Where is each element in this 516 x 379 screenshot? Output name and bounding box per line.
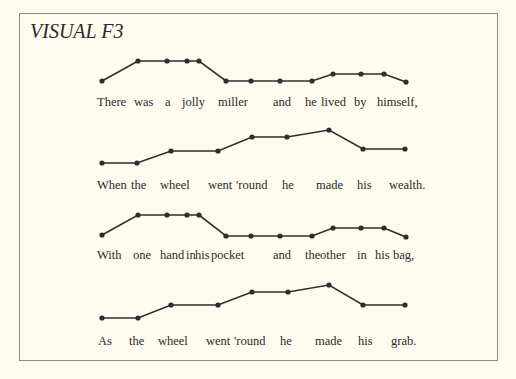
pitch-dot: [215, 302, 220, 307]
lyric-word: 'round: [234, 334, 265, 349]
pitch-dot: [135, 212, 140, 217]
contour-line-1: [99, 58, 408, 84]
pitch-dot: [184, 212, 189, 217]
lyric-word: made: [315, 334, 342, 349]
pitch-dot: [381, 225, 386, 230]
pitch-dot: [249, 289, 254, 294]
lyric-word: the: [305, 248, 320, 263]
pitch-dot: [284, 134, 289, 139]
pitch-dot: [215, 148, 220, 153]
pitch-dot: [360, 146, 365, 151]
lyric-word: went: [208, 178, 232, 193]
lyric-word: a: [165, 95, 171, 110]
pitch-dot: [277, 78, 282, 83]
lyric-word: lived: [321, 95, 346, 110]
pitch-dot: [309, 233, 314, 238]
pitch-dot: [196, 212, 201, 217]
lyric-word: his: [195, 248, 210, 263]
lyric-word: wheel: [160, 178, 190, 193]
lyric-word: There: [97, 95, 126, 110]
lyric-word: wealth.: [389, 178, 425, 193]
pitch-dot: [285, 289, 290, 294]
lyric-word: himself,: [377, 95, 418, 110]
lyric-word: he: [280, 334, 292, 349]
pitch-dot: [403, 79, 408, 84]
lyric-word: jolly: [182, 95, 205, 110]
pitch-dot: [330, 71, 335, 76]
lyric-word: other: [320, 248, 346, 263]
lyric-word: his: [375, 248, 390, 263]
lyric-word: he: [305, 95, 317, 110]
pitch-dot: [309, 78, 314, 83]
lyric-word: he: [282, 178, 294, 193]
pitch-dot: [135, 58, 140, 63]
lyric-word: wheel: [158, 334, 188, 349]
lyric-word: was: [134, 95, 153, 110]
lyric-word: As: [98, 334, 112, 349]
pitch-dot: [164, 58, 169, 63]
pitch-dot: [99, 78, 104, 83]
pitch-dot: [223, 78, 228, 83]
pitch-dot: [249, 134, 254, 139]
pitch-dot: [99, 160, 104, 165]
lyric-word: in: [357, 248, 367, 263]
pitch-dot: [360, 302, 365, 307]
pitch-dot: [358, 71, 363, 76]
pitch-dot: [381, 71, 386, 76]
lyric-word: the: [129, 334, 144, 349]
pitch-dot: [223, 233, 228, 238]
lyric-word: bag,: [393, 248, 414, 263]
pitch-dot: [134, 160, 139, 165]
lyric-word: and: [273, 95, 291, 110]
pitch-dot: [330, 225, 335, 230]
pitch-dot: [402, 302, 407, 307]
lyric-word: hand: [160, 248, 184, 263]
pitch-dot: [403, 234, 408, 239]
pitch-dot: [277, 233, 282, 238]
pitch-dot: [164, 212, 169, 217]
pitch-dot: [402, 146, 407, 151]
contour-line-2: [99, 127, 407, 165]
contour-line-4: [99, 282, 407, 320]
contour-line-3: [99, 212, 408, 239]
lyric-word: made: [316, 178, 343, 193]
lyric-word: one: [133, 248, 151, 263]
lyric-word: by: [354, 95, 367, 110]
pitch-dot: [358, 225, 363, 230]
pitch-dot: [184, 58, 189, 63]
pitch-dot: [168, 302, 173, 307]
lyric-word: went: [206, 334, 230, 349]
lyric-word: the: [131, 178, 146, 193]
lyric-word: pocket: [211, 248, 244, 263]
pitch-dot: [248, 78, 253, 83]
lyric-word: With: [97, 248, 122, 263]
pitch-dot: [326, 127, 331, 132]
lyric-word: miller: [218, 95, 248, 110]
pitch-dot: [99, 315, 104, 320]
lyric-word: his: [358, 334, 373, 349]
lyric-word: When: [97, 178, 127, 193]
lyric-word: his: [357, 178, 372, 193]
lyric-word: 'round: [236, 178, 267, 193]
pitch-dot: [248, 233, 253, 238]
pitch-dot: [326, 282, 331, 287]
pitch-dot: [99, 232, 104, 237]
pitch-dot: [196, 58, 201, 63]
lyric-word: grab.: [391, 334, 416, 349]
pitch-dot: [168, 148, 173, 153]
pitch-dot: [135, 315, 140, 320]
lyric-word: and: [273, 248, 291, 263]
